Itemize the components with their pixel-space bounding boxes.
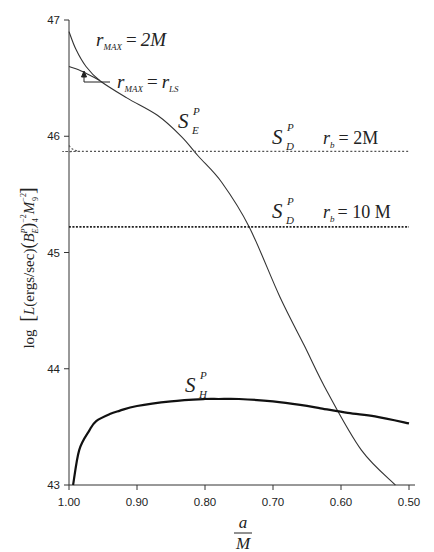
y-tick-label: 44 <box>47 363 60 375</box>
annotation-rmax-2m: rMAX=2M <box>96 29 167 52</box>
y-axis-label: log [L(ergs/sec)(BPE)−24M−29] <box>16 187 40 348</box>
annotation-sd-2m: S P D rb= 2M <box>272 121 378 152</box>
svg-text:D: D <box>285 214 294 226</box>
svg-text:M: M <box>235 534 251 552</box>
x-axis-label: a M <box>234 513 252 552</box>
x-tick-label: 0.90 <box>126 496 148 508</box>
svg-text:S: S <box>272 125 283 149</box>
svg-text:D: D <box>285 140 294 152</box>
annotation-sh: S P H <box>185 369 208 400</box>
luminosity-chart: 4344454647 1.000.900.800.700.600.50 rMAX… <box>0 0 434 552</box>
svg-text:S: S <box>185 373 196 397</box>
svg-text:S: S <box>178 109 189 133</box>
annotation-se: S P E <box>178 105 200 136</box>
series-group <box>63 32 409 485</box>
svg-text:P: P <box>286 195 294 207</box>
x-tick-label: 0.50 <box>398 496 420 508</box>
svg-text:P: P <box>286 121 294 133</box>
svg-text:H: H <box>198 388 208 400</box>
y-tick-label: 46 <box>47 130 60 142</box>
svg-text:rb= 10 M: rb= 10 M <box>323 202 391 224</box>
svg-text:a: a <box>239 513 248 532</box>
x-ticks: 1.000.900.800.700.600.50 <box>58 485 420 508</box>
series-line-4 <box>73 399 409 485</box>
y-ticks: 4344454647 <box>47 14 69 491</box>
annotation-rmax-rls: rMAX=rLS <box>117 71 179 94</box>
svg-text:rMAX=2M: rMAX=2M <box>96 29 167 52</box>
svg-text:E: E <box>191 124 199 136</box>
svg-text:log [L(ergs/sec)(BPE)−24: log [L(ergs/sec)(BPE)−24M−29] <box>16 187 40 348</box>
x-tick-label: 1.00 <box>58 496 80 508</box>
svg-text:P: P <box>192 105 200 117</box>
y-tick-label: 43 <box>47 479 60 491</box>
x-tick-label: 0.60 <box>330 496 352 508</box>
y-tick-label: 45 <box>47 247 60 259</box>
svg-text:rb= 2M: rb= 2M <box>323 128 378 150</box>
x-tick-label: 0.80 <box>194 496 216 508</box>
svg-text:rMAX=rLS: rMAX=rLS <box>117 71 179 94</box>
svg-text:S: S <box>272 199 283 223</box>
x-tick-label: 0.70 <box>262 496 284 508</box>
y-tick-label: 47 <box>47 14 60 26</box>
annotation-sd-10m: S P D rb= 10 M <box>272 195 391 226</box>
svg-text:P: P <box>199 369 207 381</box>
series-line-0 <box>69 32 395 485</box>
